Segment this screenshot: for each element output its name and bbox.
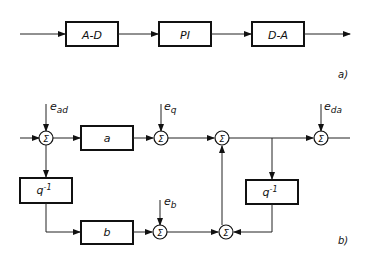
svg-text:Σ: Σ [157,228,163,238]
diagram-b: Σ ead a Σ eq Σ Σ eda [20,100,350,246]
eda-label: eda [324,100,342,115]
block-delay-left: q-1 [20,178,72,203]
ead-label: ead [50,100,68,115]
eq-label: eq [164,100,177,115]
block-ad-label: A-D [81,29,102,42]
block-a: a [81,126,133,150]
block-pi: PI [159,22,211,46]
block-delay-right: q-1 [246,180,298,204]
svg-text:Σ: Σ [158,134,164,144]
svg-text:Σ: Σ [219,134,225,144]
arrow-delay-b [46,203,80,232]
diagram-a: A-D PI D-A a) [20,22,350,80]
sum-junction-5: Σ [153,225,167,239]
block-da-label: D-A [268,29,288,42]
block-ad: A-D [66,22,118,46]
block-diagram: A-D PI D-A a) Σ ead a [0,0,368,264]
svg-text:a: a [104,132,111,145]
sum-junction-3: Σ [215,131,229,145]
svg-text:Σ: Σ [318,134,324,144]
sum-junction-4: Σ [314,131,328,145]
label-a: a) [338,69,348,80]
label-b: b) [338,235,348,246]
svg-text:b: b [104,226,111,239]
block-b: b [81,221,133,244]
svg-text:Σ: Σ [223,228,229,238]
sum-junction-6: Σ [219,225,233,239]
block-da: D-A [252,22,304,46]
block-pi-label: PI [180,29,190,42]
sum-junction-2: Σ [154,131,168,145]
sum-junction-1: Σ [39,131,53,145]
arrow-delay-sum6 [234,204,272,232]
eb-label: eb [164,195,177,210]
svg-text:Σ: Σ [43,134,49,144]
